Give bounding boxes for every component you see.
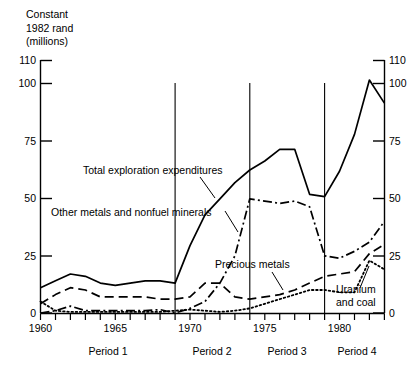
leader-line-precious	[272, 272, 283, 290]
series-precious-metals	[41, 244, 385, 303]
period-label-3: Period 3	[267, 345, 306, 357]
bottom-axis	[41, 314, 385, 321]
chart-figure: Constant 1982 rand (millions)	[0, 0, 415, 370]
annotation-total-exploration-expenditures: Total exploration expenditures	[83, 164, 223, 176]
annotation-uranium-line1: Uranium	[336, 283, 376, 295]
ytick-25: 25	[24, 250, 36, 262]
ytick-right-25: 25	[389, 250, 401, 262]
annotation-precious-metals: Precious metals	[215, 258, 290, 270]
xtick-1980: 1980	[328, 322, 352, 334]
leader-line-other	[225, 211, 238, 232]
chart-svg: 110 100 75 50 25 0 110 100 75 50 25 0 19…	[0, 0, 415, 370]
ytick-right-100: 100	[389, 77, 407, 89]
xtick-1975: 1975	[253, 322, 277, 334]
ytick-0: 0	[30, 307, 36, 319]
ytick-100: 100	[18, 77, 36, 89]
ytick-110: 110	[19, 54, 36, 66]
xtick-1970: 1970	[178, 322, 202, 334]
left-axis	[41, 60, 53, 313]
series-uranium-and-coal	[41, 261, 385, 312]
annotation-other-metals: Other metals and nonfuel minerals	[51, 206, 212, 218]
annotation-uranium-line2: and coal	[336, 296, 376, 308]
ytick-75: 75	[24, 135, 36, 147]
leader-line-total	[200, 177, 215, 198]
period-label-2: Period 2	[192, 345, 231, 357]
ytick-right-0: 0	[389, 307, 395, 319]
ytick-right-75: 75	[389, 135, 401, 147]
xtick-1965: 1965	[104, 322, 128, 334]
ytick-right-50: 50	[389, 192, 401, 204]
ytick-right-110: 110	[389, 54, 406, 66]
xtick-1960: 1960	[29, 322, 53, 334]
ytick-50: 50	[24, 192, 36, 204]
right-axis	[373, 60, 385, 313]
period-label-1: Period 1	[88, 345, 127, 357]
period-label-4: Period 4	[337, 345, 376, 357]
